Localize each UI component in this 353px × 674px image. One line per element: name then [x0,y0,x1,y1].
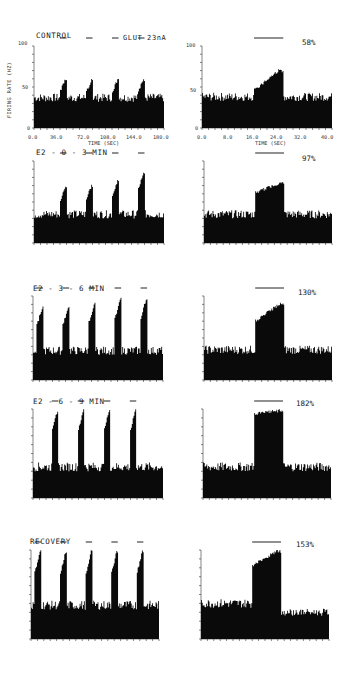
histogram-e2-3-6-expanded [200,292,334,382]
ytick-left-50: 50 [22,84,28,90]
y-axis-label: FIRING RATE (HZ) [6,62,12,118]
xtick-left-4: 144.0 [126,134,142,140]
xtick-right-1: 8.0 [223,134,232,140]
histogram-control-full [30,42,166,130]
histogram-e2-0-3-expanded [200,157,334,245]
histogram-e2-3-6-full [29,292,165,382]
xtick-right-4: 32.0 [294,134,307,140]
xtick-left-0: 0.0 [28,134,37,140]
ytick-right-100: 100 [186,42,195,48]
xtick-right-0: 0.0 [197,134,206,140]
xtick-left-5: 180.0 [153,134,169,140]
histogram-e2-0-3-full [30,157,166,245]
panel-title-e2-0-3: E2 - 0 - 3 MIN [36,148,108,157]
histogram-recovery-expanded [197,546,331,641]
xtick-right-5: 40.0 [321,134,334,140]
panel-title-control: CONTROL [36,31,72,40]
histogram-recovery-full [27,546,161,641]
stimulus-label: GLUT 23nA [123,34,166,42]
ytick-right-50: 50 [190,87,196,93]
histogram-e2-6-9-full [29,405,165,500]
ytick-left-100: 100 [18,40,27,46]
histogram-control-expanded [198,42,334,130]
x-axis-label-right: TIME (SEC) [255,140,286,146]
histogram-e2-6-9-expanded [199,405,333,500]
xtick-left-1: 36.0 [50,134,63,140]
x-axis-label-left: TIME (SEC) [88,140,119,146]
